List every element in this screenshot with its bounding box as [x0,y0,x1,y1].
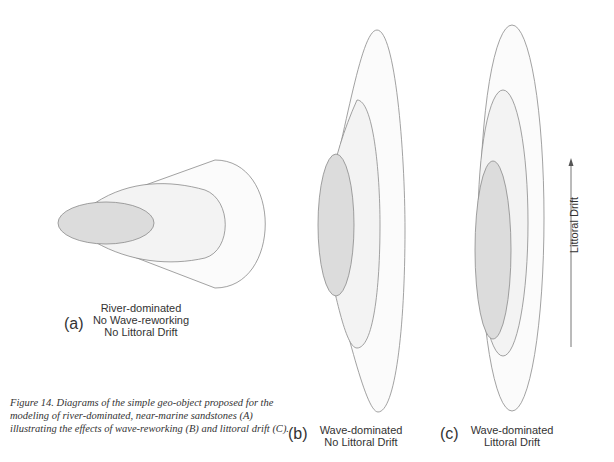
panel-a-letter: (a) [64,315,84,333]
panel-b-line-1: Wave-dominated [306,424,416,436]
panel-b-letter: (b) [288,425,308,443]
arrow-label: Littoral Drift [568,197,580,253]
panel-c-line-2: Littoral Drift [459,436,565,448]
panel-a-inner-ellipse [58,202,154,244]
panel-b-line-2: No Littoral Drift [306,436,416,448]
panel-b-label: Wave-dominated No Littoral Drift [306,424,416,448]
geo-object-diagram [0,0,614,462]
figure-caption: Figure 14. Diagrams of the simple geo-ob… [10,396,290,435]
panel-b-inner-ellipse [318,154,354,296]
panel-a-line-3: No Littoral Drift [86,326,196,338]
panel-c-line-1: Wave-dominated [459,424,565,436]
panel-c-diagram [475,25,544,411]
panel-b-diagram [318,30,405,412]
panel-a-label: River-dominated No Wave-reworking No Lit… [86,302,196,338]
panel-c-label: Wave-dominated Littoral Drift [459,424,565,448]
panel-c-inner-ellipse [475,161,511,339]
panel-c-letter: (c) [440,425,459,443]
arrow-head-icon [569,158,574,166]
panel-a-diagram [58,160,265,288]
panel-a-line-1: River-dominated [86,302,196,314]
panel-a-line-2: No Wave-reworking [86,314,196,326]
